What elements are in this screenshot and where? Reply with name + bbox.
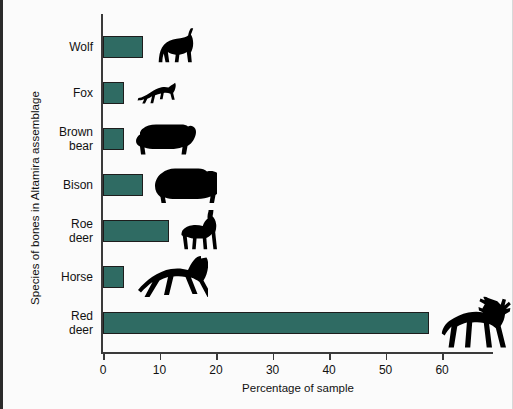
x-axis-label: Percentage of sample — [103, 382, 493, 394]
x-tick — [216, 352, 218, 360]
bar — [103, 266, 124, 288]
x-tick — [442, 352, 444, 360]
x-tick-label: 40 — [322, 363, 335, 377]
y-axis-label: Species of bones in Altamira assemblage — [29, 48, 41, 348]
bar-row: Wolf — [103, 24, 493, 70]
category-label: Roe deer — [69, 208, 93, 254]
bar-row: Red deer — [103, 300, 493, 346]
brown-bear-icon — [136, 123, 196, 156]
category-label: Brown bear — [59, 116, 93, 162]
x-tick-label: 0 — [100, 363, 107, 377]
roe-deer-icon — [181, 210, 221, 252]
bar — [103, 174, 143, 196]
bison-icon — [155, 167, 217, 203]
x-tick-label: 20 — [209, 363, 222, 377]
category-label: Wolf — [69, 24, 93, 70]
plot-area: WolfFoxBrown bearBisonRoe deerHorseRed d… — [103, 14, 493, 352]
bar-row: Fox — [103, 70, 493, 116]
x-tick — [103, 352, 105, 360]
bar — [103, 82, 124, 104]
red-deer-icon — [441, 295, 513, 351]
bar-row: Horse — [103, 254, 493, 300]
x-tick — [329, 352, 331, 360]
category-label: Red deer — [69, 300, 93, 346]
x-tick — [386, 352, 388, 360]
x-tick-label: 10 — [153, 363, 166, 377]
x-tick-label: 60 — [435, 363, 448, 377]
bar-row: Brown bear — [103, 116, 493, 162]
category-label: Fox — [73, 70, 93, 116]
x-tick-label: 30 — [266, 363, 279, 377]
chart-figure: Species of bones in Altamira assemblage … — [0, 0, 513, 409]
category-label: Bison — [63, 162, 93, 208]
bar-row: Bison — [103, 162, 493, 208]
bar — [103, 220, 169, 242]
bar — [103, 128, 124, 150]
bar — [103, 36, 143, 58]
horse-icon — [136, 254, 208, 300]
fox-icon — [136, 81, 179, 105]
category-label: Horse — [61, 254, 93, 300]
x-tick — [273, 352, 275, 360]
bar-row: Roe deer — [103, 208, 493, 254]
bar — [103, 312, 429, 334]
x-tick — [160, 352, 162, 360]
wolf-icon — [155, 27, 201, 67]
x-tick-label: 50 — [379, 363, 392, 377]
